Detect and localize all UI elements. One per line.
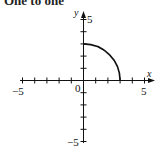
y-axis-arrow-icon: [81, 11, 86, 18]
origin-label: 0: [75, 82, 81, 94]
x-axis-label: x: [146, 68, 152, 79]
y-axis-label: y: [73, 7, 79, 18]
quarter-circle-curve: [84, 44, 121, 81]
coordinate-plane: x y 5 −5 −5 5 0: [0, 0, 163, 155]
x-min-label: −5: [12, 85, 24, 97]
x-max-label: 5: [141, 85, 147, 97]
y-min-label: −5: [67, 136, 79, 148]
y-max-label: 5: [87, 13, 93, 25]
